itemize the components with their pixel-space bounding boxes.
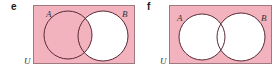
universe-label-f: U — [160, 56, 167, 66]
venn-diagram-f: A B U — [160, 6, 272, 67]
set-b-label-e: B — [122, 9, 128, 19]
set-a-label-e: A — [45, 9, 52, 19]
venn-diagrams: A B U A B U — [0, 0, 275, 72]
venn-diagram-e: A B U — [24, 6, 135, 67]
universe-label-e: U — [24, 56, 31, 66]
set-b-label-f: B — [261, 13, 267, 23]
set-a-label-f: A — [176, 13, 183, 23]
